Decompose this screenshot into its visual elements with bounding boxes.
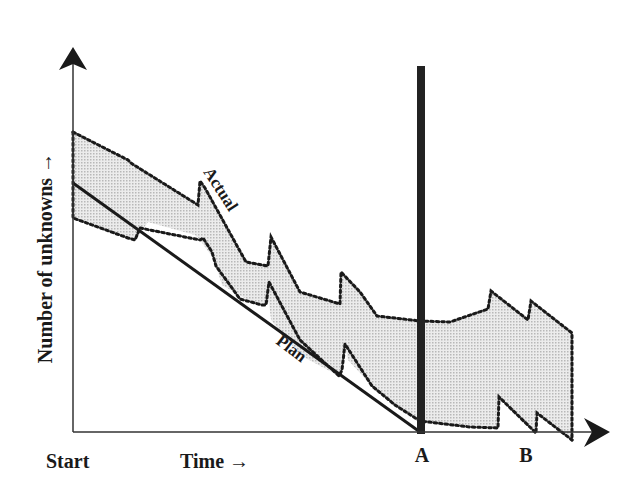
milestone-a-label: A [415, 444, 430, 466]
x-axis-label: Time → [180, 450, 249, 472]
milestone-a-bar [417, 66, 425, 434]
unknowns-over-time-diagram: Actual Plan Number of unknowns → Start T… [0, 0, 637, 495]
y-axis-label: Number of unknowns → [34, 153, 56, 363]
actual-band [73, 132, 572, 440]
milestone-b-label: B [519, 444, 532, 466]
start-label: Start [46, 450, 90, 472]
